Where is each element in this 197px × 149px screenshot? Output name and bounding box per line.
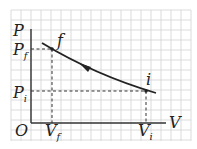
vi-label: Vi bbox=[138, 121, 153, 142]
pv-diagram: P Pf Pi f i O Vf Vi V bbox=[0, 0, 197, 149]
v-axis-label: V bbox=[169, 113, 182, 132]
point-f bbox=[50, 47, 54, 51]
vf-label: Vf bbox=[45, 121, 63, 142]
p-axis-label: P bbox=[12, 21, 24, 40]
origin-label: O bbox=[15, 121, 28, 140]
point-f-label: f bbox=[56, 31, 66, 50]
point-i-label: i bbox=[146, 70, 151, 89]
pf-label: Pf bbox=[12, 40, 30, 61]
pi-label: Pi bbox=[12, 83, 27, 104]
point-i bbox=[144, 89, 148, 93]
grid bbox=[11, 10, 191, 141]
process-curve bbox=[42, 43, 156, 93]
